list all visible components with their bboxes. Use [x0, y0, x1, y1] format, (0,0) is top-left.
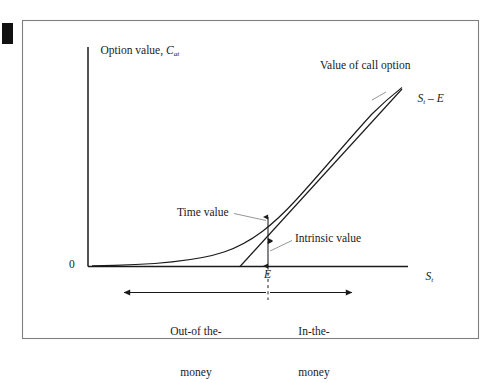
x-axis-title-subscript: t: [431, 275, 433, 283]
time-value-label: Time value: [177, 206, 229, 220]
y-axis-title: Option value, Cat: [89, 30, 179, 71]
out-of-money-label: Out-of the- money: [140, 298, 252, 383]
intrinsic-value-leader: [270, 241, 292, 252]
x-axis-title: St: [414, 256, 433, 297]
strike-label: E: [264, 268, 271, 282]
call-value-label: Value of call option: [320, 59, 410, 73]
out-of-money-line1: Out-of the-: [140, 325, 252, 339]
out-of-money-line2: money: [140, 366, 252, 380]
in-the-money-label: In-the- money: [262, 298, 366, 383]
intrinsic-value-label: Intrinsic value: [295, 232, 361, 246]
y-axis-title-subscript: at: [174, 49, 180, 57]
call-value-leader: [372, 92, 386, 100]
y-axis-title-symbol: C: [166, 44, 174, 56]
y-axis-title-prefix: Option value,: [101, 44, 166, 56]
payoff-line-label: St – E: [406, 78, 444, 119]
payoff-line-suffix: – E: [425, 92, 444, 104]
origin-label: 0: [69, 258, 75, 272]
time-value-leader: [234, 214, 266, 221]
in-the-money-line1: In-the-: [262, 325, 366, 339]
left-edge-black-tab: [2, 23, 13, 44]
in-the-money-line2: money: [262, 366, 366, 380]
